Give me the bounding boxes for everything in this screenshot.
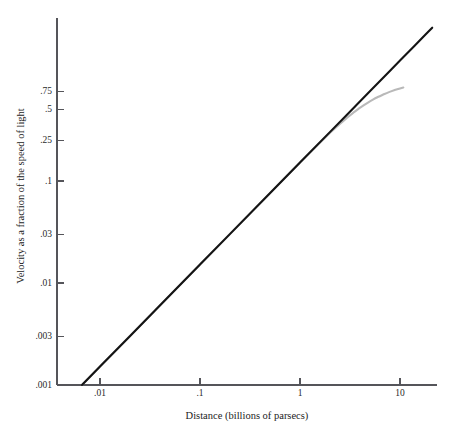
series-linear-hubble-law	[82, 28, 432, 385]
y-tick-label: .01	[40, 278, 52, 288]
x-tick-label: .01	[94, 388, 106, 398]
chart-figure: .001.003.01.03.1.25.5.75 .01.1110 Distan…	[0, 0, 453, 436]
y-tick-label: .75	[40, 86, 52, 96]
x-axis-ticks: .01.1110	[94, 378, 405, 398]
x-tick-label: 10	[395, 388, 405, 398]
x-axis-title: Distance (billions of parsecs)	[186, 410, 309, 422]
y-tick-label: .5	[45, 104, 52, 114]
axes-group	[57, 18, 437, 385]
velocity-distance-plot: .001.003.01.03.1.25.5.75 .01.1110 Distan…	[0, 0, 453, 436]
y-axis-ticks: .001.003.01.03.1.25.5.75	[35, 86, 64, 389]
series-relativistic-recession	[82, 87, 403, 385]
x-tick-label: 1	[298, 388, 303, 398]
y-tick-label: .25	[40, 135, 52, 145]
y-tick-label: .001	[35, 380, 52, 390]
y-tick-label: .1	[45, 176, 52, 186]
y-tick-label: .003	[35, 331, 52, 341]
y-tick-label: .03	[40, 229, 52, 239]
x-tick-label: .1	[196, 388, 203, 398]
data-series-group	[82, 28, 432, 385]
y-axis-title: Velocity as a fraction of the speed of l…	[15, 108, 26, 284]
